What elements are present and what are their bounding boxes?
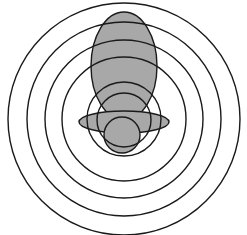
figure-canvas <box>0 0 247 235</box>
tall-vertical-ellipse <box>91 12 157 120</box>
diagram-svg <box>0 0 247 235</box>
